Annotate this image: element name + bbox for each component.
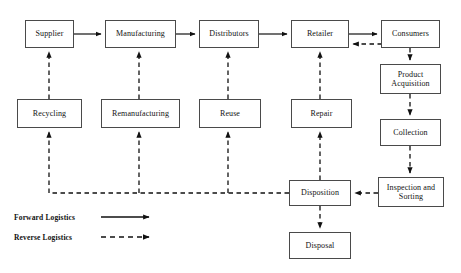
- node-label: Reuse: [218, 109, 242, 119]
- node-repair[interactable]: Repair: [291, 99, 352, 128]
- node-supplier[interactable]: Supplier: [25, 20, 74, 48]
- node-label: Inspection and Sorting: [385, 183, 437, 202]
- node-distributors[interactable]: Distributors: [199, 20, 259, 48]
- legend-forward-label: Forward Logistics: [14, 213, 100, 222]
- node-recycling[interactable]: Recycling: [17, 99, 82, 128]
- node-label: Retailer: [305, 29, 335, 39]
- node-disposition[interactable]: Disposition: [289, 180, 351, 206]
- node-label: Disposition: [299, 188, 341, 198]
- node-label: Disposal: [304, 241, 337, 251]
- legend-reverse-arrow-icon: [100, 231, 156, 243]
- supply-chain-diagram: Supplier Manufacturing Distributors Reta…: [0, 0, 461, 273]
- node-label: Recycling: [31, 109, 68, 119]
- node-manufacturing[interactable]: Manufacturing: [105, 20, 176, 48]
- legend-forward-logistics: Forward Logistics: [14, 211, 156, 223]
- node-inspection-and-sorting[interactable]: Inspection and Sorting: [378, 177, 444, 207]
- legend-reverse-label: Reverse Logistics: [14, 233, 100, 242]
- node-label: Manufacturing: [114, 29, 167, 39]
- node-label: Supplier: [34, 29, 66, 39]
- legend-forward-arrow-icon: [100, 211, 156, 223]
- node-label: Distributors: [207, 29, 250, 39]
- node-label: Product Acquisition: [389, 70, 431, 89]
- node-reuse[interactable]: Reuse: [199, 99, 261, 128]
- node-remanufacturing[interactable]: Remanufacturing: [101, 99, 180, 128]
- node-consumers[interactable]: Consumers: [381, 20, 440, 48]
- node-label: Remanufacturing: [110, 109, 171, 119]
- node-product-acquisition[interactable]: Product Acquisition: [380, 64, 441, 94]
- legend-reverse-logistics: Reverse Logistics: [14, 231, 156, 243]
- node-disposal[interactable]: Disposal: [289, 232, 351, 259]
- node-retailer[interactable]: Retailer: [291, 20, 349, 48]
- node-label: Repair: [309, 109, 335, 119]
- node-label: Consumers: [390, 29, 431, 39]
- node-collection[interactable]: Collection: [380, 119, 441, 146]
- node-label: Collection: [391, 128, 429, 138]
